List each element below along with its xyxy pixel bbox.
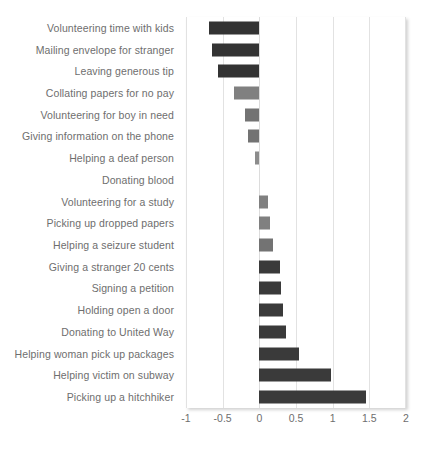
bar-row — [186, 126, 406, 148]
bar — [259, 217, 270, 230]
bar — [259, 347, 299, 360]
bar-row — [186, 17, 406, 39]
bar-row — [186, 343, 406, 365]
bar-row — [186, 104, 406, 126]
bar-row — [186, 256, 406, 278]
bar — [259, 369, 331, 382]
bar — [245, 108, 260, 121]
bar — [259, 304, 282, 317]
x-tick-label: 0 — [256, 412, 262, 424]
bar — [259, 391, 366, 404]
y-axis-label: Helping a seizure student — [0, 234, 180, 256]
y-axis-label: Collating papers for no pay — [0, 82, 180, 104]
x-tick-label: 0.5 — [289, 412, 304, 424]
y-axis-label: Volunteering time with kids — [0, 17, 180, 39]
bar — [234, 87, 259, 100]
plot-area — [186, 17, 406, 408]
y-axis-label: Donating blood — [0, 169, 180, 191]
bar-row — [186, 386, 406, 408]
x-tick-label: 2 — [403, 412, 409, 424]
x-tick-label: -1 — [181, 412, 190, 424]
bar-row — [186, 60, 406, 82]
x-tick-label: 1.5 — [362, 412, 377, 424]
x-axis-tick-labels: -1-0.500.511.52 — [186, 408, 406, 432]
x-tick-label: 1 — [330, 412, 336, 424]
y-axis-label: Leaving generous tip — [0, 60, 180, 82]
y-axis-category-labels: Volunteering time with kidsMailing envel… — [0, 17, 180, 408]
bar — [259, 325, 286, 338]
y-axis-label: Helping victim on subway — [0, 365, 180, 387]
bar-row — [186, 321, 406, 343]
y-axis-label: Giving a stranger 20 cents — [0, 256, 180, 278]
y-axis-label: Holding open a door — [0, 299, 180, 321]
bar — [218, 65, 259, 78]
bar — [212, 43, 259, 56]
bar-series — [186, 17, 406, 408]
bar-row — [186, 234, 406, 256]
bar-row — [186, 147, 406, 169]
horizontal-bar-chart: Volunteering time with kidsMailing envel… — [0, 0, 430, 449]
y-axis-label: Volunteering for a study — [0, 191, 180, 213]
bar — [209, 21, 259, 34]
x-tick-label: -0.5 — [214, 412, 232, 424]
bar-row — [186, 191, 406, 213]
y-axis-label: Volunteering for boy in need — [0, 104, 180, 126]
bar-row — [186, 169, 406, 191]
bar-row — [186, 299, 406, 321]
bar — [248, 130, 260, 143]
y-axis-label: Picking up a hitchhiker — [0, 386, 180, 408]
bar — [259, 239, 272, 252]
y-axis-label: Donating to United Way — [0, 321, 180, 343]
bar — [259, 195, 268, 208]
bar — [259, 260, 280, 273]
bar-row — [186, 82, 406, 104]
y-axis-label: Giving information on the phone — [0, 126, 180, 148]
bar-row — [186, 212, 406, 234]
y-axis-label: Mailing envelope for stranger — [0, 39, 180, 61]
bar-row — [186, 278, 406, 300]
y-axis-label: Signing a petition — [0, 278, 180, 300]
bar-row — [186, 39, 406, 61]
y-axis-label: Helping a deaf person — [0, 147, 180, 169]
bar-row — [186, 365, 406, 387]
bar — [255, 152, 259, 165]
bar — [259, 282, 281, 295]
y-axis-label: Picking up dropped papers — [0, 212, 180, 234]
y-axis-label: Helping woman pick up packages — [0, 343, 180, 365]
